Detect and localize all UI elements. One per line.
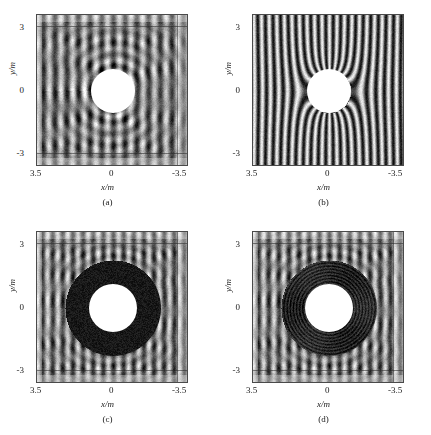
panel-a-xtick-3p5: 3.5 xyxy=(30,169,41,178)
panel-a-xtick-neg3p5: -3.5 xyxy=(172,169,186,178)
panel-c-frame xyxy=(36,231,188,383)
panel-c-ytick-0: 0 xyxy=(0,303,24,312)
panel-b-xtick-0: 0 xyxy=(325,169,330,178)
panel-d-scatterer xyxy=(305,284,353,332)
panel-b-ytick-0: 0 xyxy=(214,86,240,95)
panel-b-frame xyxy=(252,14,404,166)
panel-d-ytick-3: 3 xyxy=(214,240,240,249)
panel-c-xlabel: x/m xyxy=(0,400,215,409)
panel-c-xtick-3p5: 3.5 xyxy=(30,386,41,395)
panel-a-xlabel: x/m xyxy=(0,183,215,192)
panel-d-ytick-neg3: -3 xyxy=(214,366,240,375)
panel-d-gridline-bottom xyxy=(253,370,403,371)
panel-a-xtick-0: 0 xyxy=(109,169,114,178)
panel-b-xlabel: x/m xyxy=(216,183,431,192)
panel-c-gridline-top xyxy=(37,243,187,244)
panel-a-frame xyxy=(36,14,188,166)
panel-d-frame xyxy=(252,231,404,383)
panel-d-gridline-top xyxy=(253,243,403,244)
panel-c-ytick-neg3: -3 xyxy=(0,366,24,375)
panel-c: y/m 3 0 -3 3.5 0 -3.5 x/m (c) xyxy=(0,217,215,434)
panel-a-ytick-neg3: -3 xyxy=(0,149,24,158)
panel-c-ytick-3: 3 xyxy=(0,240,24,249)
panel-d-ytick-0: 0 xyxy=(214,303,240,312)
panel-c-plot xyxy=(36,231,188,383)
panel-d-xtick-3p5: 3.5 xyxy=(246,386,257,395)
panel-d-xlabel: x/m xyxy=(216,400,431,409)
figure-container: y/m 3 0 -3 3.5 0 -3.5 x/m (a) y/m 3 0 xyxy=(0,0,431,435)
panel-a-gridline-right xyxy=(177,15,178,165)
panel-b-xtick-neg3p5: -3.5 xyxy=(388,169,402,178)
panel-c-xtick-neg3p5: -3.5 xyxy=(172,386,186,395)
panel-b-ytick-3: 3 xyxy=(214,23,240,32)
panel-d-caption: (d) xyxy=(216,415,431,424)
panel-d-plot xyxy=(252,231,404,383)
panel-c-ylabel: y/m xyxy=(8,279,17,292)
panel-d-gridline-right xyxy=(393,232,394,382)
panel-d-ylabel: y/m xyxy=(224,279,233,292)
panel-b: y/m 3 0 -3 3.5 0 -3.5 x/m (b) xyxy=(216,0,431,217)
panel-c-gridline-right xyxy=(177,232,178,382)
panel-a-ytick-3: 3 xyxy=(0,23,24,32)
panel-a-caption: (a) xyxy=(0,198,215,207)
panel-b-ylabel: y/m xyxy=(224,62,233,75)
panel-a-gridline-bottom xyxy=(37,153,187,154)
panel-b-ytick-neg3: -3 xyxy=(214,149,240,158)
panel-c-xtick-0: 0 xyxy=(109,386,114,395)
panel-c-scatterer xyxy=(89,284,137,332)
panel-a-ylabel: y/m xyxy=(8,62,17,75)
panel-d-xtick-neg3p5: -3.5 xyxy=(388,386,402,395)
panel-c-caption: (c) xyxy=(0,415,215,424)
panel-a: y/m 3 0 -3 3.5 0 -3.5 x/m (a) xyxy=(0,0,215,217)
panel-a-gridline-top xyxy=(37,26,187,27)
panel-b-caption: (b) xyxy=(216,198,431,207)
panel-a-ytick-0: 0 xyxy=(0,86,24,95)
panel-d: y/m 3 0 -3 3.5 0 -3.5 x/m (d) xyxy=(216,217,431,434)
panel-b-xtick-3p5: 3.5 xyxy=(246,169,257,178)
panel-c-gridline-bottom xyxy=(37,370,187,371)
panel-b-plot xyxy=(252,14,404,166)
panel-d-xtick-0: 0 xyxy=(325,386,330,395)
panel-b-scatterer xyxy=(307,69,351,113)
panel-a-plot xyxy=(36,14,188,166)
panel-a-scatterer xyxy=(91,69,135,113)
